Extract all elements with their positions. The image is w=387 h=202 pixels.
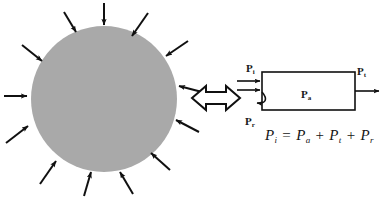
equation-lhs: Pi: [265, 127, 277, 143]
equals-sign: =: [281, 127, 292, 143]
incident-arrow: [151, 153, 170, 170]
incident-arrow: [6, 126, 28, 143]
incident-arrow: [120, 172, 133, 194]
absorbing-body-circle: [31, 26, 177, 172]
plus-sign: +: [346, 127, 357, 143]
equation-term-transmitted: Pt: [329, 127, 341, 143]
incident-arrow: [132, 13, 148, 36]
physics-diagram: Pi Pr Pa Pt Pi = Pa + Pt + Pr: [0, 0, 387, 202]
incident-arrow: [176, 120, 199, 132]
label-transmitted-power: Pt: [357, 62, 366, 78]
incident-arrow: [84, 172, 91, 196]
incident-arrow: [166, 41, 188, 56]
equivalence-arrow-icon: [192, 86, 240, 110]
incident-arrow: [22, 45, 42, 61]
incident-power-arrows: [237, 81, 260, 90]
incident-arrow: [40, 161, 56, 184]
label-reflected-power: Pr: [245, 112, 255, 128]
equation-term-absorbed: Pa: [296, 127, 310, 143]
plus-sign: +: [315, 127, 326, 143]
diagram-canvas: [0, 0, 387, 202]
label-incident-power: Pi: [246, 59, 255, 75]
label-absorbed-power: Pa: [301, 85, 311, 101]
equation-term-reflected: Pr: [361, 127, 374, 143]
incident-arrow: [64, 12, 76, 32]
power-balance-equation: Pi = Pa + Pt + Pr: [265, 127, 374, 144]
